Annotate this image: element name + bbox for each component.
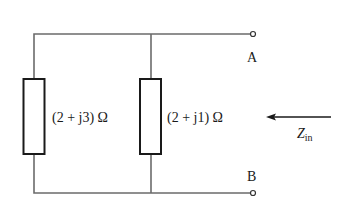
zin-subscript: in — [305, 132, 313, 143]
circuit-diagram: (2 + j3) Ω (2 + j1) Ω A B Zin — [0, 0, 341, 211]
impedance-z2 — [140, 79, 161, 154]
terminal-b-label: B — [247, 169, 256, 184]
zin-symbol: Z — [297, 126, 305, 141]
bottom-wire — [34, 154, 251, 193]
top-wire — [34, 34, 251, 79]
terminal-a-node — [251, 32, 256, 37]
impedance-z1 — [24, 79, 45, 154]
input-impedance-label: Zin — [297, 126, 313, 143]
terminal-b-node — [251, 191, 256, 196]
impedance-z1-label: (2 + j3) Ω — [52, 110, 108, 126]
impedance-z2-label: (2 + j1) Ω — [167, 110, 223, 126]
terminal-a-label: A — [247, 50, 258, 65]
